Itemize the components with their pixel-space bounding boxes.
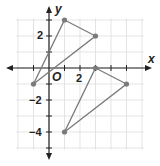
y-tick-label-neg4: −4 [29,126,42,138]
y-axis-down-arrow-icon [46,153,52,160]
origin-label: O [52,70,62,84]
vertex-point [31,81,36,86]
x-axis-left-arrow-icon [6,65,13,71]
y-axis-label: y [54,2,63,16]
x-axis-label: x [147,52,156,66]
vertex-point [124,81,129,86]
y-tick-label-2: 2 [37,29,43,41]
vertex-point [62,17,67,22]
y-tick-label-neg2: −2 [29,94,42,106]
x-tick-label-2: 2 [76,72,82,84]
coordinate-plane: x y O 2 2 −2 −4 [0,0,160,166]
y-axis-up-arrow-icon [46,6,52,13]
vertex-point [62,129,67,134]
vertex-point [93,33,98,38]
vertex-point [93,65,98,70]
